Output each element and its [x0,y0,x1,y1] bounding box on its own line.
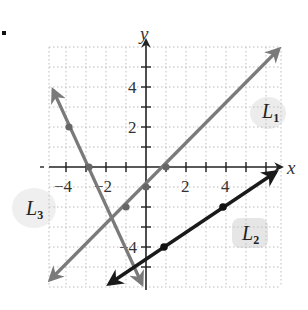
x-tick-label: 4 [221,177,230,196]
x-tick-label: −4 [54,177,73,196]
coordinate-plane: −4 −2 2 4 4 2 −4 x y L1 L2 L3 [0,0,308,310]
x-tick-label: 2 [181,177,190,196]
y-tick-label: 2 [128,118,137,137]
y-axis-label: y [138,23,149,44]
x-axis-label: x [286,157,296,178]
y-tick-label: 4 [128,78,137,97]
